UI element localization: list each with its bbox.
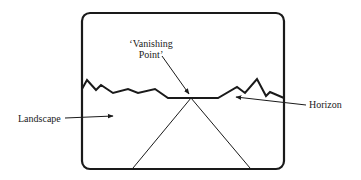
picture-frame	[82, 13, 284, 169]
road-left-edge	[133, 98, 191, 168]
horizon-line	[82, 79, 284, 98]
horizon-label: Horizon	[309, 99, 342, 110]
vanishing-point-label-line2: Point’	[139, 49, 163, 60]
perspective-diagram: ‘Vanishing Point’ Landscape Horizon	[0, 0, 361, 180]
road-right-edge	[191, 98, 250, 168]
horizon-arrow	[236, 97, 306, 105]
landscape-label: Landscape	[18, 113, 61, 124]
vanishing-point-arrow	[162, 56, 189, 94]
landscape-arrow	[65, 116, 113, 118]
vanishing-point-label-line1: ‘Vanishing	[129, 38, 172, 49]
